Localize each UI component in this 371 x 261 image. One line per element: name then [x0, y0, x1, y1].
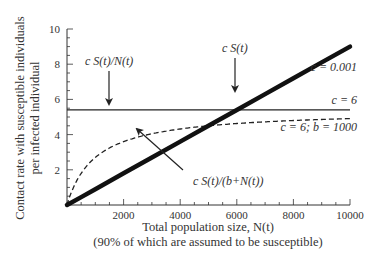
contact-rate-chart: 246810 200040006000800010000 Contact rat… [0, 0, 371, 261]
y-axis-label-line1: Contact rate with susceptible individual… [13, 16, 27, 220]
annotation-frequency-dependent: c S(t) [222, 41, 248, 55]
param-label-dashed: c = 6; b = 1000 [280, 120, 357, 134]
x-tick-label: 10000 [336, 209, 364, 221]
annotation-saturating: c S(t)/(b+N(t)) [193, 174, 263, 188]
x-axis-label: Total population size, N(t) [142, 220, 274, 234]
y-tick-label: 2 [55, 164, 61, 176]
x-axis-ticks: 200040006000800010000 [67, 199, 364, 221]
x-axis-sublabel: (90% of which are assumed to be suscepti… [93, 235, 322, 249]
x-tick-label: 2000 [113, 209, 136, 221]
param-label-flat: c = 6 [332, 93, 357, 107]
annotation-density-dependent: c S(t)/N(t) [85, 54, 133, 68]
y-tick-label: 6 [55, 93, 61, 105]
y-tick-label: 10 [49, 23, 61, 35]
param-label-thick: c = 0.001 [311, 60, 357, 74]
y-axis-label-line2: per infected individual [28, 61, 42, 175]
y-tick-label: 8 [55, 58, 61, 70]
x-tick-label: 8000 [282, 209, 305, 221]
y-tick-label: 4 [55, 129, 61, 141]
y-axis-ticks: 246810 [49, 23, 73, 205]
y-axis-label: Contact rate with susceptible individual… [13, 16, 42, 220]
